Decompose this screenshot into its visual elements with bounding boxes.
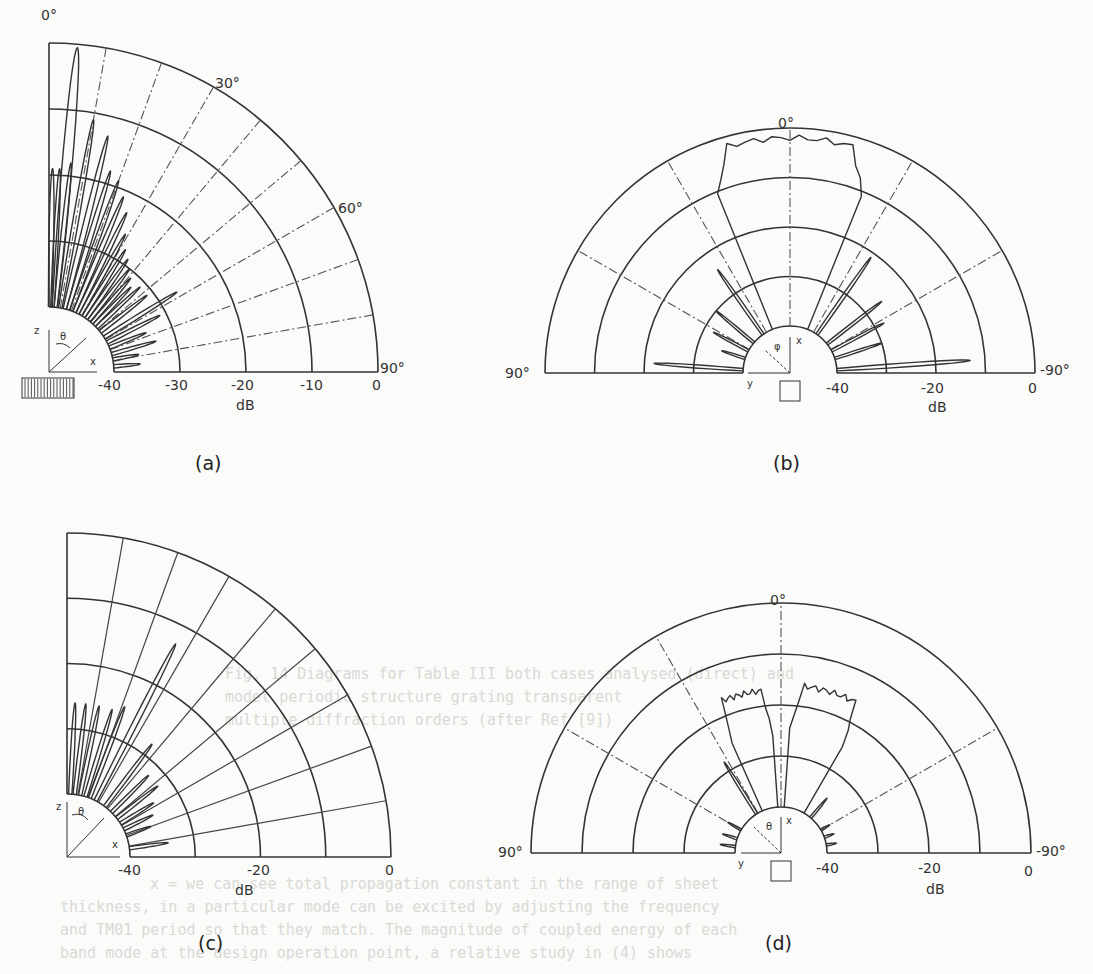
db-tick-20: -20 [918,860,941,876]
phi-label: φ [774,341,781,352]
angle-label-0: 0° [41,7,57,23]
db-tick-30: -30 [165,377,188,393]
angle-label-30: 30° [215,75,240,91]
hatched-slab-icon [22,378,74,398]
db-tick-20: -20 [921,380,944,396]
panel-label-b: (b) [773,452,800,474]
db-tick-40: -40 [816,860,839,876]
polar-grid-c [67,533,391,857]
axis-x-label: x [796,335,802,346]
square-aperture-icon [780,381,800,401]
angle-label-60: 60° [338,200,363,216]
polar-grid-d [531,603,1031,853]
db-tick-0: 0 [1024,863,1033,879]
angle-label-minus90: -90° [1036,843,1066,859]
angle-label-0: 0° [770,592,786,608]
db-tick-0: 0 [372,377,381,393]
db-axis-label: dB [926,881,945,897]
theta-label: θ [78,806,84,817]
figure: 0° 30° 60° 90° -40 -30 -20 -10 0 dB (a) … [0,0,1093,974]
angle-label-minus90: -90° [1040,362,1070,378]
angle-label-90: 90° [498,844,523,860]
coordinate-inset-c: z x θ [56,801,120,857]
db-axis-label: dB [236,397,255,413]
axis-x-label: x [90,356,96,367]
polar-plot-b: 0° 90° -90° -40 -20 0 dB (b) x y φ [505,115,1070,474]
polar-grid-b [545,128,1035,373]
axis-y-label: y [747,378,753,389]
db-axis-label: dB [928,399,947,415]
db-tick-20: -20 [231,377,254,393]
theta-label: θ [60,331,66,342]
angle-label-90: 90° [380,360,405,376]
polar-plot-d: 0° 90° -90° -40 -20 0 dB (d) x y θ [498,592,1066,954]
axis-z-label: z [56,801,61,812]
panel-label-d: (d) [765,932,792,954]
panel-label-a: (a) [195,452,221,474]
angle-label-0: 0° [778,115,794,131]
polar-plot-c: -40 -20 0 dB (c) z x θ [56,533,394,954]
db-tick-40: -40 [118,862,141,878]
theta-label: θ [766,821,772,832]
angle-label-90: 90° [505,365,530,381]
db-tick-0: 0 [385,862,394,878]
db-axis-label: dB [235,882,254,898]
axis-z-label: z [34,325,39,336]
db-tick-40: -40 [98,377,121,393]
db-tick-10: -10 [300,377,323,393]
coordinate-inset-a: z x θ [34,325,97,372]
db-tick-20: -20 [247,862,270,878]
panel-label-c: (c) [198,932,223,954]
axis-x-label: x [786,815,792,826]
db-tick-40: -40 [826,380,849,396]
db-tick-0: 0 [1028,380,1037,396]
square-aperture-icon [771,861,791,881]
axis-y-label: y [738,858,744,869]
axis-x-label: x [112,839,118,850]
polar-plot-a: 0° 30° 60° 90° -40 -30 -20 -10 0 dB (a) … [22,7,405,474]
